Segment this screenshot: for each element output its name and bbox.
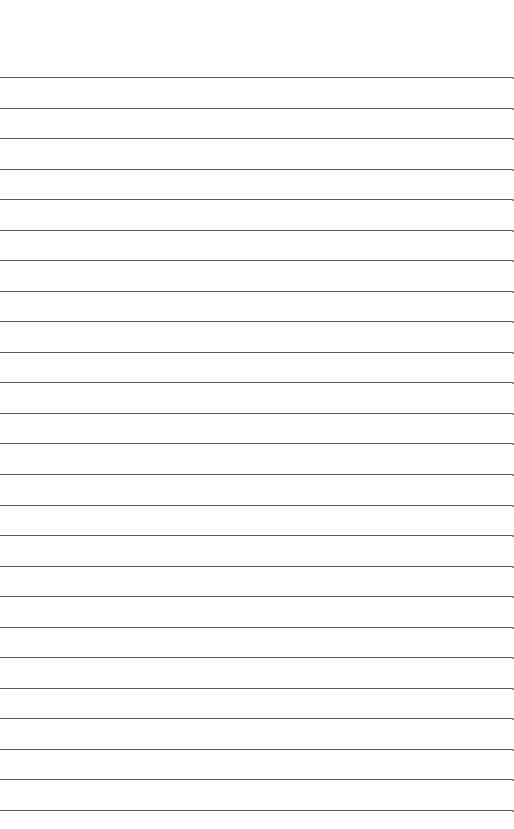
ruled-line (0, 108, 512, 109)
ruled-paper-page (0, 0, 514, 829)
ruled-line (0, 352, 512, 353)
ruled-line (0, 443, 512, 444)
ruled-line (0, 627, 512, 628)
ruled-line (0, 810, 512, 811)
ruled-line (0, 718, 512, 719)
ruled-line (0, 169, 512, 170)
ruled-line (0, 321, 512, 322)
ruled-line (0, 138, 512, 139)
ruled-line (0, 230, 512, 231)
ruled-line (0, 291, 512, 292)
ruled-line (0, 566, 512, 567)
ruled-line (0, 474, 512, 475)
ruled-line (0, 505, 512, 506)
ruled-line (0, 779, 512, 780)
ruled-line (0, 413, 512, 414)
ruled-line (0, 535, 512, 536)
ruled-line (0, 260, 512, 261)
ruled-line (0, 688, 512, 689)
ruled-line (0, 749, 512, 750)
ruled-line (0, 382, 512, 383)
ruled-line (0, 657, 512, 658)
ruled-line (0, 77, 512, 78)
ruled-line (0, 199, 512, 200)
ruled-line (0, 596, 512, 597)
